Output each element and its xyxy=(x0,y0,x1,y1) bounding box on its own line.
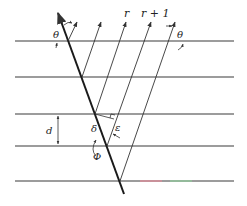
ray-arrow-r xyxy=(95,22,126,114)
label-d: d xyxy=(46,125,52,136)
parallel-planes xyxy=(15,41,234,181)
theta-arrow-left xyxy=(56,43,57,48)
label-r-plus-1: r + 1 xyxy=(141,7,169,20)
theta-arc-top xyxy=(64,22,72,25)
label-epsilon: ε xyxy=(115,122,120,133)
ray-arrow xyxy=(82,22,101,77)
tilted-line xyxy=(58,13,124,194)
perpendicular-marker xyxy=(95,114,115,119)
label-phi: Φ xyxy=(93,151,101,162)
theta-arrow-right-bottom xyxy=(178,44,183,50)
label-theta-right: θ xyxy=(177,29,183,40)
label-theta-left: θ xyxy=(53,29,59,40)
diagram-canvas: θ θ r r + 1 d δ ε Φ xyxy=(0,0,247,206)
ray-arrow xyxy=(68,22,77,41)
epsilon-arrow xyxy=(113,134,120,138)
label-r: r xyxy=(124,7,130,20)
right-angle-box xyxy=(110,114,115,118)
geometry-diagram: θ θ r r + 1 d δ ε Φ xyxy=(0,0,247,206)
ray-arrow xyxy=(120,22,175,181)
rays xyxy=(68,22,175,181)
label-delta: δ xyxy=(91,123,97,134)
